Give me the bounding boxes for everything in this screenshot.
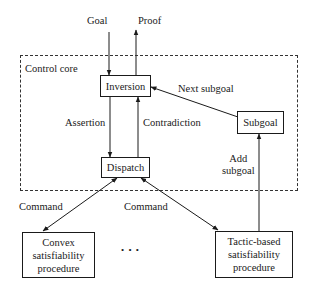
inversion-node: Inversion xyxy=(100,75,151,97)
ellipsis: • • • xyxy=(121,244,140,256)
contradiction-label: Contradiction xyxy=(143,117,201,129)
convex-line-1: Convex xyxy=(42,236,75,249)
goal-label: Goal xyxy=(87,15,107,27)
next-subgoal-label: Next subgoal xyxy=(178,83,234,95)
assertion-label: Assertion xyxy=(65,117,105,129)
tactic-line-2: satisfiability xyxy=(228,248,280,261)
command-left-label: Command xyxy=(19,201,63,213)
control-core-label: Control core xyxy=(25,63,78,75)
tactic-procedure-node: Tactic-based satisfiability procedure xyxy=(215,231,293,278)
tactic-line-3: procedure xyxy=(233,261,275,274)
subgoal-node: Subgoal xyxy=(237,111,284,134)
convex-line-3: procedure xyxy=(38,262,80,275)
add-subgoal-label: Add subgoal xyxy=(222,153,255,177)
dispatch-node: Dispatch xyxy=(101,157,150,178)
proof-label: Proof xyxy=(138,15,161,27)
add-subgoal-line-2: subgoal xyxy=(222,165,255,177)
add-subgoal-line-1: Add xyxy=(222,153,255,165)
convex-line-2: satisfiability xyxy=(33,249,85,262)
command-right-label: Command xyxy=(124,201,168,213)
convex-procedure-node: Convex satisfiability procedure xyxy=(22,232,95,278)
tactic-line-1: Tactic-based xyxy=(228,235,281,248)
